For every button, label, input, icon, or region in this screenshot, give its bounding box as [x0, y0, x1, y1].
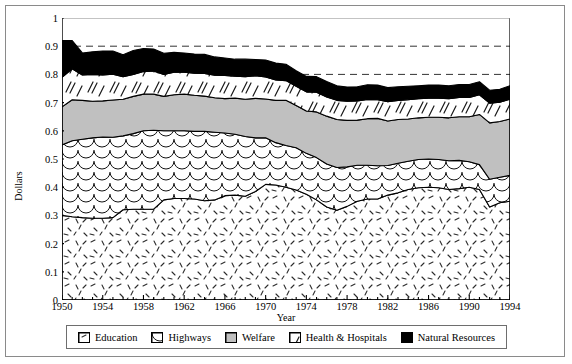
legend-item[interactable]: Health & Hospitals: [289, 332, 387, 343]
y-tick-label: 0.8: [24, 69, 58, 80]
y-tick-label: 0.7: [24, 97, 58, 108]
legend-item[interactable]: Highways: [151, 332, 211, 343]
natural-resources-swatch: [401, 332, 413, 343]
x-tick-label: 1954: [92, 301, 113, 312]
education-swatch: [78, 332, 90, 343]
legend-label: Welfare: [242, 332, 275, 343]
x-tick-label: 1990: [459, 301, 480, 312]
legend-label: Natural Resources: [418, 332, 495, 343]
x-tick-label: 1986: [418, 301, 439, 312]
y-tick-label: 0.1: [24, 266, 58, 277]
legend-item[interactable]: Natural Resources: [401, 332, 495, 343]
y-tick-label: 0.6: [24, 125, 58, 136]
legend-label: Highways: [168, 332, 211, 343]
x-tick-label: 1970: [255, 301, 276, 312]
y-tick-label: 0.2: [24, 238, 58, 249]
x-tick-label: 1966: [214, 301, 235, 312]
y-tick-label: 0.4: [24, 182, 58, 193]
x-tick-label: 1994: [500, 301, 521, 312]
x-tick-label: 1982: [377, 301, 398, 312]
y-axis-tick-labels: 00.10.20.30.40.50.60.70.80.91: [20, 18, 58, 300]
y-tick-label: 0.9: [24, 41, 58, 52]
y-tick-label: 1: [24, 13, 58, 24]
chart-figure: Dollars 00.10.20.30.40.50.60.70.80.91: [0, 0, 572, 364]
highways-swatch: [151, 332, 163, 343]
x-tick-label: 1962: [174, 301, 195, 312]
stacked-area-plot: [62, 18, 510, 300]
x-tick-label: 1974: [296, 301, 317, 312]
legend-item[interactable]: Welfare: [225, 332, 275, 343]
legend-label: Education: [95, 332, 138, 343]
legend-label: Health & Hospitals: [306, 332, 387, 343]
x-tick-label: 1978: [337, 301, 358, 312]
x-tick-label: 1950: [52, 301, 73, 312]
plot-area: [62, 18, 510, 300]
chart-legend: Education: [66, 325, 507, 349]
x-tick-label: 1958: [133, 301, 154, 312]
y-tick-label: 0.5: [24, 154, 58, 165]
x-axis-label: Year: [62, 312, 510, 323]
welfare-swatch: [225, 332, 237, 343]
legend-item[interactable]: Education: [78, 332, 138, 343]
health-hospitals-swatch: [289, 332, 301, 343]
y-tick-label: 0.3: [24, 210, 58, 221]
